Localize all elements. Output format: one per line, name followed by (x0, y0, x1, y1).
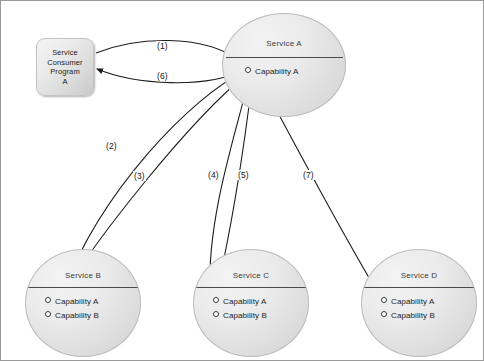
service-b-divider (28, 287, 138, 288)
service-c-title: Service C (193, 271, 309, 280)
capability-bullet-icon (45, 297, 51, 303)
flow-label-3: (3) (133, 171, 146, 181)
service-c-capability-a[interactable]: Capability A (213, 297, 266, 306)
service-a-capability-a[interactable]: Capability A (245, 67, 298, 76)
service-b-capability-b-label: Capability B (55, 311, 99, 320)
service-d-title: Service D (361, 271, 477, 280)
service-d-capability-a[interactable]: Capability A (381, 297, 434, 306)
flow-label-6: (6) (156, 71, 169, 81)
service-a-title: Service A (222, 39, 346, 48)
service-b-capability-a-label: Capability A (55, 297, 98, 306)
capability-bullet-icon (45, 311, 51, 317)
consumer-label: Service Consumer Program A (47, 48, 82, 86)
capability-bullet-icon (381, 311, 387, 317)
service-a[interactable]: Service A Capability A (222, 13, 346, 117)
service-a-divider (226, 57, 343, 58)
flow-label-1: (1) (156, 41, 169, 51)
service-d-capability-a-label: Capability A (391, 297, 434, 306)
capability-bullet-icon (245, 67, 251, 73)
diagram-canvas: Service Consumer Program A Service A Cap… (0, 0, 484, 361)
service-b-capability-b[interactable]: Capability B (45, 311, 99, 320)
service-d-capability-b[interactable]: Capability B (381, 311, 435, 320)
service-c-capability-b-label: Capability B (223, 311, 267, 320)
flow-label-4: (4) (207, 170, 220, 180)
service-b-capability-a[interactable]: Capability A (45, 297, 98, 306)
service-c-capability-b[interactable]: Capability B (213, 311, 267, 320)
service-d[interactable]: Service D Capability A Capability B (361, 249, 477, 357)
service-consumer-program-a[interactable]: Service Consumer Program A (36, 38, 94, 96)
service-c-capability-a-label: Capability A (223, 297, 266, 306)
capability-bullet-icon (381, 297, 387, 303)
flow-label-5: (5) (237, 170, 250, 180)
flow-label-7: (7) (302, 170, 315, 180)
flow-label-2: (2) (105, 141, 118, 151)
capability-bullet-icon (213, 311, 219, 317)
capability-bullet-icon (213, 297, 219, 303)
service-b-title: Service B (25, 271, 141, 280)
service-b[interactable]: Service B Capability A Capability B (25, 249, 141, 357)
service-d-divider (364, 287, 474, 288)
service-c-divider (196, 287, 306, 288)
service-a-capability-a-label: Capability A (255, 67, 298, 76)
service-d-capability-b-label: Capability B (391, 311, 435, 320)
service-c[interactable]: Service C Capability A Capability B (193, 249, 309, 357)
